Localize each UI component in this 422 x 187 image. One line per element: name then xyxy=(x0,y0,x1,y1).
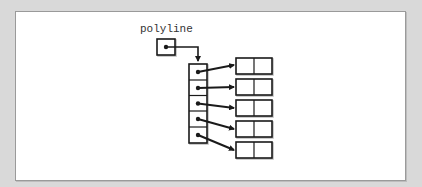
point-object xyxy=(236,58,272,74)
point-objects xyxy=(236,58,272,158)
variable-label: polyline xyxy=(140,23,193,35)
point-object xyxy=(236,142,272,158)
variable-box xyxy=(157,39,198,61)
point-object xyxy=(236,79,272,95)
reference-diagram: polyline xyxy=(0,0,422,187)
point-object xyxy=(236,100,272,116)
point-object xyxy=(236,121,272,137)
